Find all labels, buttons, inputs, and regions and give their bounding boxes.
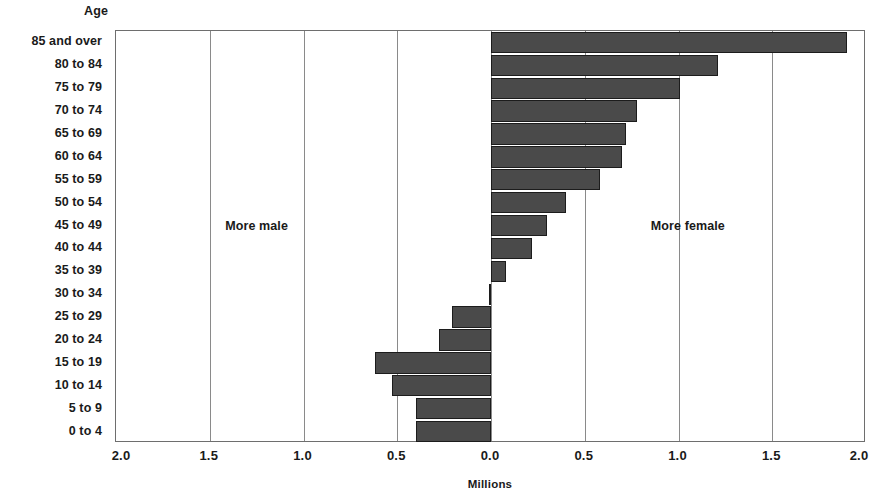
bar bbox=[491, 215, 547, 236]
x-axis-tick-label: 1.5 bbox=[199, 448, 218, 463]
x-axis-tick-label: 0.5 bbox=[574, 448, 593, 463]
x-axis-tick-labels: 2.01.51.00.50.00.51.01.52.0 bbox=[115, 448, 865, 470]
x-axis-tick-label: 0.0 bbox=[481, 448, 500, 463]
y-axis-tick-label: 30 to 34 bbox=[0, 286, 102, 300]
plot-area: More male More female bbox=[115, 30, 865, 442]
x-axis-tick-label: 2.0 bbox=[850, 448, 869, 463]
bar bbox=[491, 78, 680, 99]
y-axis-tick-label: 50 to 54 bbox=[0, 195, 102, 209]
y-axis-tick-label: 5 to 9 bbox=[0, 401, 102, 415]
x-axis-tick-label: 1.0 bbox=[668, 448, 687, 463]
bar bbox=[452, 306, 491, 327]
y-axis-tick-label: 60 to 64 bbox=[0, 149, 102, 163]
y-axis-tick-label: 75 to 79 bbox=[0, 80, 102, 94]
y-axis-tick-label: 25 to 29 bbox=[0, 309, 102, 323]
bar bbox=[491, 146, 622, 167]
y-axis-tick-label: 40 to 44 bbox=[0, 240, 102, 254]
x-axis-tick-label: 0.5 bbox=[387, 448, 406, 463]
bar bbox=[491, 169, 600, 190]
bar bbox=[416, 398, 491, 419]
y-axis-tick-label: 85 and over bbox=[0, 34, 102, 48]
y-axis-tick-label: 10 to 14 bbox=[0, 378, 102, 392]
bar bbox=[491, 100, 637, 121]
bar bbox=[375, 352, 491, 373]
y-axis-tick-label: 20 to 24 bbox=[0, 332, 102, 346]
x-axis-tick-label: 1.0 bbox=[293, 448, 312, 463]
y-axis-tick-label: 55 to 59 bbox=[0, 172, 102, 186]
bar bbox=[392, 375, 491, 396]
bar bbox=[491, 32, 847, 53]
bar bbox=[489, 284, 491, 305]
y-axis-tick-label: 35 to 39 bbox=[0, 263, 102, 277]
bar bbox=[439, 329, 492, 350]
y-axis-tick-label: 45 to 49 bbox=[0, 218, 102, 232]
bar bbox=[416, 421, 491, 442]
annotation-more-female: More female bbox=[651, 219, 725, 233]
bar bbox=[491, 192, 566, 213]
population-pyramid-chart: Age 85 and over80 to 8475 to 7970 to 746… bbox=[0, 0, 878, 504]
x-axis-tick-label: 2.0 bbox=[112, 448, 131, 463]
bar-series bbox=[116, 31, 864, 441]
y-axis-tick-label: 0 to 4 bbox=[0, 424, 102, 438]
x-axis-title: Millions bbox=[115, 478, 865, 490]
bar bbox=[491, 55, 718, 76]
bar bbox=[491, 261, 506, 282]
y-axis-tick-label: 65 to 69 bbox=[0, 126, 102, 140]
y-axis-tick-label: 15 to 19 bbox=[0, 355, 102, 369]
bar bbox=[491, 238, 532, 259]
y-axis-tick-label: 70 to 74 bbox=[0, 103, 102, 117]
y-axis-tick-labels: 85 and over80 to 8475 to 7970 to 7465 to… bbox=[0, 30, 108, 442]
y-axis-title: Age bbox=[0, 4, 108, 18]
y-axis-tick-label: 80 to 84 bbox=[0, 57, 102, 71]
annotation-more-male: More male bbox=[225, 219, 288, 233]
bar bbox=[491, 123, 626, 144]
x-axis-tick-label: 1.5 bbox=[762, 448, 781, 463]
